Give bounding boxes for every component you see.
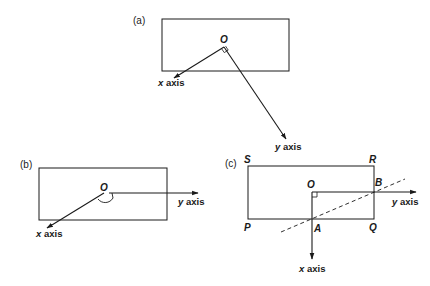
panel-b-origin-label: O	[100, 182, 108, 193]
corner-label-s: S	[244, 154, 251, 165]
point-label-a: A	[313, 223, 321, 234]
panel-c-origin-label: O	[307, 179, 315, 190]
panel-a-rectangle	[162, 19, 289, 71]
panel-b-x-axis-label: x axis	[35, 228, 62, 239]
corner-label-q: Q	[369, 222, 377, 233]
panel-c-y-axis-label: y axis	[391, 196, 418, 207]
panel-a: (a) O x axis y axis	[133, 15, 301, 152]
diagram-canvas: (a) O x axis y axis (b) O y axis x axis …	[0, 0, 430, 286]
panel-b-angle-arc-icon	[98, 193, 113, 203]
panel-b-x-axis-arrow	[47, 193, 104, 228]
panel-a-x-axis-arrow	[174, 47, 224, 78]
panel-a-x-axis-label: x axis	[157, 77, 184, 88]
panel-b: (b) O y axis x axis	[20, 159, 204, 239]
point-label-b: B	[375, 177, 382, 188]
panel-c-dashed-line-ab	[281, 179, 405, 232]
panel-c-x-axis-label: x axis	[298, 263, 325, 274]
panel-c-right-angle-icon	[312, 192, 317, 197]
corner-label-p: P	[244, 222, 251, 233]
corner-label-r: R	[369, 154, 377, 165]
panel-a-label: (a)	[133, 15, 145, 26]
panel-b-y-axis-label: y axis	[177, 196, 204, 207]
panel-a-y-axis-arrow	[224, 47, 286, 139]
panel-c-label: (c)	[225, 158, 237, 169]
panel-a-y-axis-label: y axis	[274, 141, 301, 152]
panel-a-origin-label: O	[220, 34, 228, 45]
panel-b-label: (b)	[20, 159, 32, 170]
panel-c: (c) S R P Q O A B y axis x axis	[225, 154, 418, 274]
